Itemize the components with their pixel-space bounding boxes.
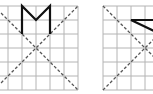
angle-shape-figure (131, 20, 153, 32)
right-grid (103, 6, 153, 90)
diagram-canvas (0, 0, 153, 94)
left-grid (0, 6, 78, 90)
